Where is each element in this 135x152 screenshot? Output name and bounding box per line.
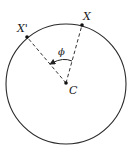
point-c bbox=[64, 81, 68, 85]
circle-diagram: X X' C ϕ bbox=[0, 0, 135, 152]
label-x-prime: X' bbox=[16, 22, 28, 35]
radius-to-x bbox=[66, 25, 82, 83]
point-x-prime bbox=[25, 35, 29, 39]
label-phi: ϕ bbox=[58, 46, 65, 57]
label-c: C bbox=[69, 84, 78, 97]
label-x: X bbox=[82, 10, 92, 23]
point-x bbox=[80, 23, 84, 27]
angle-arc-phi bbox=[52, 59, 72, 63]
